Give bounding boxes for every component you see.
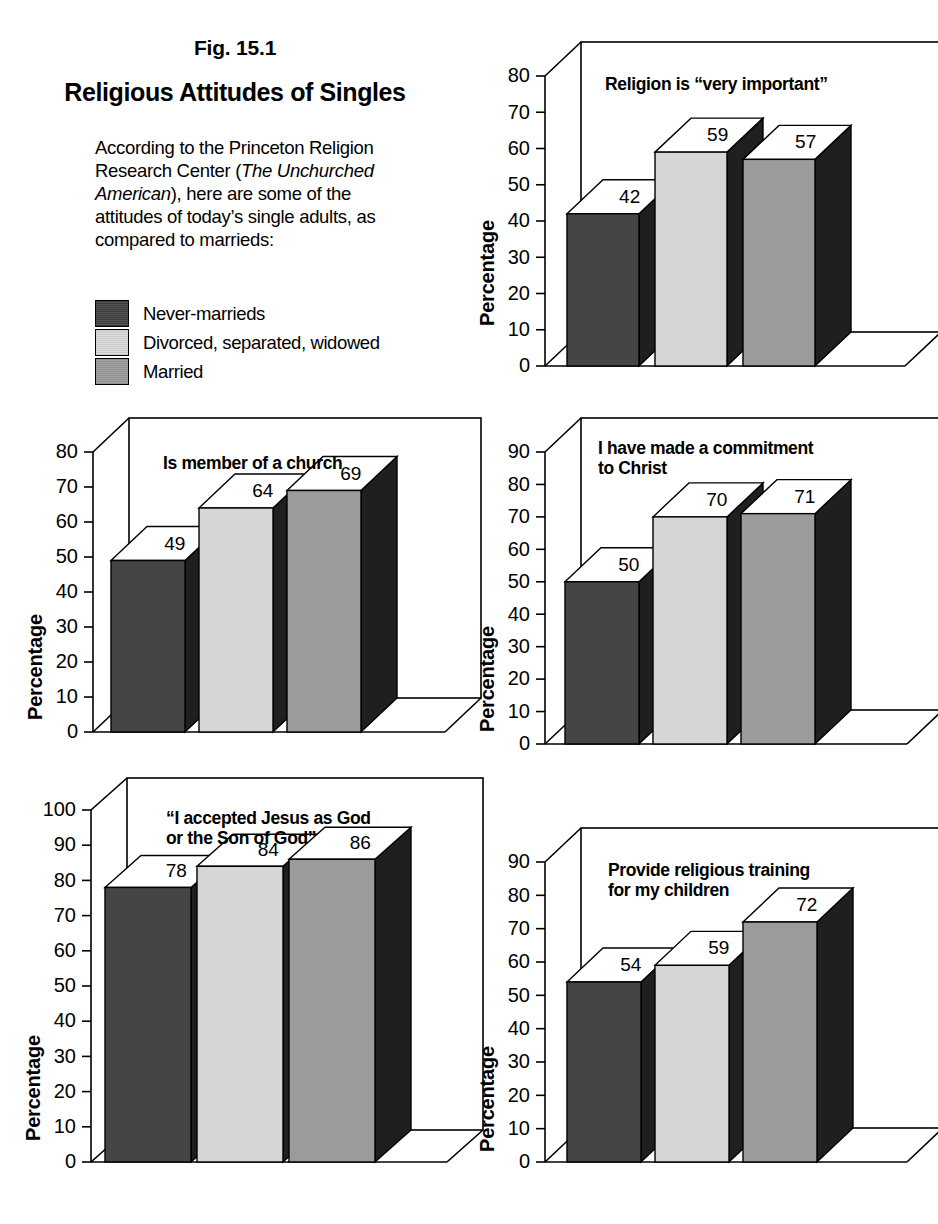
svg-text:60: 60 xyxy=(54,939,76,961)
svg-text:0: 0 xyxy=(519,732,530,754)
chart3-title: “I accepted Jesus as God or the Son of G… xyxy=(166,808,446,849)
chart2-axis-label: Percentage xyxy=(476,626,499,732)
chart2-title-line2: to Christ xyxy=(598,458,908,478)
bar-accepted-jesus-2: 86 xyxy=(289,827,411,1162)
svg-text:30: 30 xyxy=(508,1050,530,1072)
bar-value-label: 54 xyxy=(620,954,642,975)
chart3-axis-label: Percentage xyxy=(22,1035,45,1141)
legend-item-divorced: Divorced, separated, widowed xyxy=(95,328,380,357)
svg-text:30: 30 xyxy=(56,615,78,637)
chart0-title: Religion is “very important” xyxy=(605,74,905,94)
svg-text:10: 10 xyxy=(508,700,530,722)
chart-religious-training-children: Percentage Provide religious training fo… xyxy=(470,822,930,1202)
bar-value-label: 70 xyxy=(706,489,727,510)
chart4-title: Provide religious training for my childr… xyxy=(608,860,908,901)
chart1-title-line1: Is member of a church xyxy=(163,453,443,473)
svg-text:50: 50 xyxy=(56,545,78,567)
svg-text:0: 0 xyxy=(519,1150,530,1172)
bar-value-label: 57 xyxy=(795,131,816,152)
svg-text:30: 30 xyxy=(508,246,530,268)
bar-value-label: 42 xyxy=(619,186,640,207)
svg-text:10: 10 xyxy=(54,1115,76,1137)
bar-commitment-to-christ-2: 71 xyxy=(741,480,851,744)
chart2-title-line1: I have made a commitment xyxy=(598,438,908,458)
svg-text:50: 50 xyxy=(508,570,530,592)
chart1-axis-label: Percentage xyxy=(24,614,47,720)
svg-text:40: 40 xyxy=(508,603,530,625)
figure-number: Fig. 15.1 xyxy=(0,36,470,60)
legend-swatch-divorced xyxy=(95,329,129,356)
page-title: Religious Attitudes of Singles xyxy=(0,78,470,107)
svg-text:10: 10 xyxy=(508,1117,530,1139)
svg-text:20: 20 xyxy=(508,667,530,689)
svg-text:100: 100 xyxy=(43,798,76,820)
bar-value-label: 59 xyxy=(707,124,728,145)
figure-header: Fig. 15.1 Religious Attitudes of Singles… xyxy=(0,36,470,252)
svg-text:40: 40 xyxy=(508,1017,530,1039)
chart-is-member-of-a-church: Percentage Is member of a church 0102030… xyxy=(18,420,458,770)
svg-text:90: 90 xyxy=(508,440,530,462)
svg-text:10: 10 xyxy=(56,685,78,707)
svg-text:80: 80 xyxy=(54,869,76,891)
svg-text:60: 60 xyxy=(56,510,78,532)
svg-text:70: 70 xyxy=(508,505,530,527)
legend-label-divorced: Divorced, separated, widowed xyxy=(143,332,380,354)
bar-is-member-of-a-church-2: 69 xyxy=(287,457,397,733)
svg-text:60: 60 xyxy=(508,950,530,972)
svg-text:40: 40 xyxy=(54,1009,76,1031)
intro-paragraph: According to the Princeton Religion Rese… xyxy=(95,137,395,252)
svg-text:40: 40 xyxy=(508,209,530,231)
chart0-axis-label: Percentage xyxy=(476,220,499,326)
chart4-title-line1: Provide religious training xyxy=(608,860,908,880)
svg-text:70: 70 xyxy=(508,101,530,123)
chart3-title-line1: “I accepted Jesus as God xyxy=(166,808,446,828)
svg-text:80: 80 xyxy=(56,440,78,462)
svg-text:70: 70 xyxy=(56,475,78,497)
bar-value-label: 64 xyxy=(252,480,274,501)
svg-text:80: 80 xyxy=(508,64,530,86)
svg-text:0: 0 xyxy=(67,720,78,742)
svg-text:50: 50 xyxy=(508,173,530,195)
svg-text:0: 0 xyxy=(65,1150,76,1172)
legend-item-never-marrieds: Never-marrieds xyxy=(95,299,380,328)
svg-text:40: 40 xyxy=(56,580,78,602)
svg-text:20: 20 xyxy=(54,1080,76,1102)
svg-text:30: 30 xyxy=(54,1045,76,1067)
svg-text:50: 50 xyxy=(54,974,76,996)
bar-religious-training-children-2: 72 xyxy=(743,888,853,1162)
chart3-title-line2: or the Son of God” xyxy=(166,828,446,848)
legend-swatch-never-marrieds xyxy=(95,300,129,327)
chart0-title-line1: Religion is “very important” xyxy=(605,74,905,94)
bar-value-label: 49 xyxy=(164,533,185,554)
svg-text:90: 90 xyxy=(54,833,76,855)
legend-label-married: Married xyxy=(143,361,203,383)
bar-value-label: 78 xyxy=(166,860,187,881)
chart1-title: Is member of a church xyxy=(163,453,443,473)
legend-label-never-marrieds: Never-marrieds xyxy=(143,303,265,325)
legend: Never-marrieds Divorced, separated, wido… xyxy=(95,299,380,386)
chart-religion-very-important: Percentage Religion is “very important” … xyxy=(470,36,930,406)
svg-text:70: 70 xyxy=(508,917,530,939)
chart-accepted-jesus: Percentage “I accepted Jesus as God or t… xyxy=(18,786,458,1201)
svg-text:90: 90 xyxy=(508,850,530,872)
bar-religion-very-important-2: 57 xyxy=(743,125,851,366)
svg-text:20: 20 xyxy=(508,1084,530,1106)
legend-swatch-married xyxy=(95,358,129,385)
chart-commitment-to-christ: Percentage I have made a commitment to C… xyxy=(470,412,930,782)
svg-text:80: 80 xyxy=(508,473,530,495)
svg-text:30: 30 xyxy=(508,635,530,657)
chart4-title-line2: for my children xyxy=(608,880,908,900)
chart2-title: I have made a commitment to Christ xyxy=(598,438,908,479)
svg-text:50: 50 xyxy=(508,984,530,1006)
svg-text:20: 20 xyxy=(508,282,530,304)
svg-text:10: 10 xyxy=(508,318,530,340)
chart4-axis-label: Percentage xyxy=(476,1046,499,1152)
bar-value-label: 71 xyxy=(794,486,815,507)
bar-value-label: 59 xyxy=(708,937,729,958)
svg-text:70: 70 xyxy=(54,904,76,926)
svg-text:60: 60 xyxy=(508,538,530,560)
svg-text:80: 80 xyxy=(508,884,530,906)
svg-text:60: 60 xyxy=(508,137,530,159)
svg-text:20: 20 xyxy=(56,650,78,672)
bar-value-label: 50 xyxy=(618,554,639,575)
